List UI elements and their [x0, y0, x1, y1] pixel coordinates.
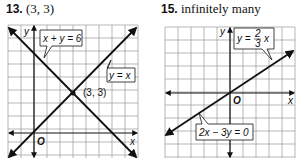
svg-text:O: O — [233, 95, 241, 106]
svg-text:O: O — [37, 136, 45, 147]
svg-text:x: x — [129, 136, 136, 147]
svg-text:y: y — [23, 26, 30, 37]
svg-text:x: x — [263, 33, 270, 44]
intersection-point — [71, 91, 76, 96]
panel-problem-13: 13. (3, 3) (3, 3) — [0, 0, 150, 165]
label-y-equals-x: y = x — [107, 60, 135, 82]
svg-text:x + y = 6: x + y = 6 — [42, 33, 82, 44]
label-y-two-thirds-x: y = 2 3 x — [234, 28, 274, 60]
label-2x-minus-3y-0: 2x − 3y = 0 — [196, 113, 253, 140]
svg-text:(3, 3): (3, 3) — [83, 87, 106, 98]
svg-text:3: 3 — [255, 38, 261, 49]
label-x-plus-y-6: x + y = 6 — [40, 30, 82, 58]
svg-text:y: y — [219, 26, 226, 37]
panel-problem-15: 15. infinitely many y = — [155, 0, 305, 165]
graph-13: (3, 3) x + y = 6 y = x y x O — [0, 0, 150, 165]
graph-15: y = 2 3 x 2x − 3y = 0 y x O — [155, 0, 305, 165]
svg-text:2x − 3y = 0: 2x − 3y = 0 — [198, 127, 249, 138]
svg-text:y = x: y = x — [108, 70, 131, 81]
svg-text:x: x — [287, 95, 294, 106]
svg-text:y =: y = — [236, 33, 251, 44]
